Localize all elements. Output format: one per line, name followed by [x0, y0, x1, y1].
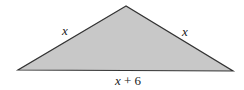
triangle-figure: x x x + 6 — [0, 0, 244, 90]
left-side-label: x — [61, 23, 68, 38]
triangle-shape — [18, 6, 233, 71]
base-label: x + 6 — [114, 73, 142, 88]
triangle-diagram: x x x + 6 — [0, 0, 244, 90]
right-side-label: x — [181, 24, 188, 39]
base-label-rest: + 6 — [121, 73, 142, 88]
